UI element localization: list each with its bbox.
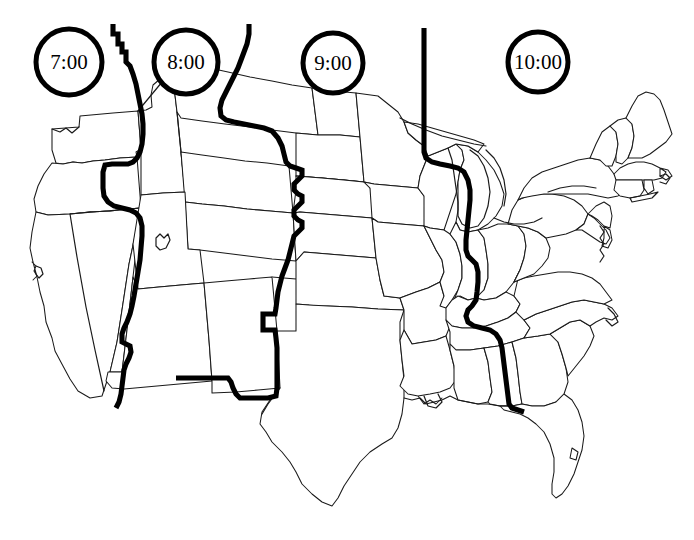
state-connecticut bbox=[614, 180, 654, 198]
state-massachusetts bbox=[614, 162, 672, 180]
clock-eastern-label: 10:00 bbox=[514, 50, 562, 74]
state-texas bbox=[260, 304, 404, 506]
clock-central-label: 9:00 bbox=[314, 51, 351, 75]
state-maine bbox=[626, 92, 672, 158]
state-washington bbox=[52, 111, 141, 164]
state-louisiana bbox=[400, 330, 456, 404]
state-south-dakota bbox=[296, 133, 364, 182]
clock-eastern[interactable]: 10:00 bbox=[508, 32, 568, 92]
clock-pacific-label: 7:00 bbox=[50, 50, 87, 74]
clock-mountain-label: 8:00 bbox=[167, 50, 204, 74]
clock-pacific[interactable]: 7:00 bbox=[36, 29, 102, 95]
clock-central[interactable]: 9:00 bbox=[303, 33, 363, 93]
state-outlines-layer bbox=[30, 67, 672, 506]
us-time-zone-map-figure: 7:00 8:00 9:00 10:00 bbox=[0, 0, 694, 540]
map-canvas: 7:00 8:00 9:00 10:00 bbox=[0, 0, 694, 540]
clock-mountain[interactable]: 8:00 bbox=[154, 30, 218, 94]
